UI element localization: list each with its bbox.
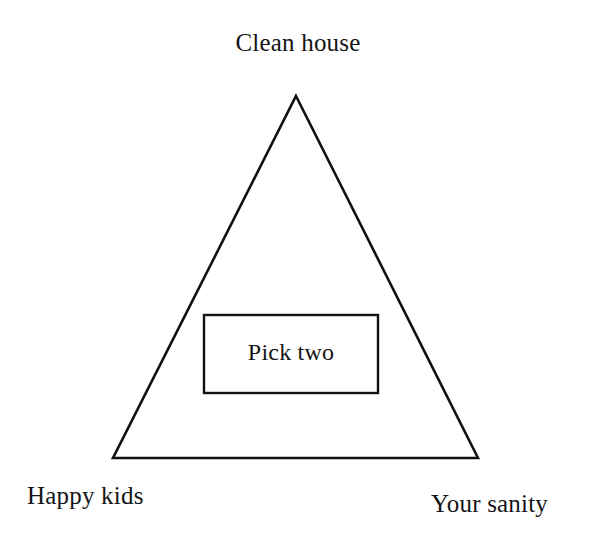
triangle-outline bbox=[113, 96, 478, 458]
vertex-label-your-sanity: Your sanity bbox=[431, 491, 548, 516]
triangle-diagram-graphic bbox=[0, 0, 596, 545]
center-box-label-pick-two: Pick two bbox=[203, 340, 379, 364]
vertex-label-happy-kids: Happy kids bbox=[27, 483, 144, 508]
diagram-canvas: Clean house Happy kids Your sanity Pick … bbox=[0, 0, 596, 545]
vertex-label-clean-house: Clean house bbox=[0, 30, 596, 55]
